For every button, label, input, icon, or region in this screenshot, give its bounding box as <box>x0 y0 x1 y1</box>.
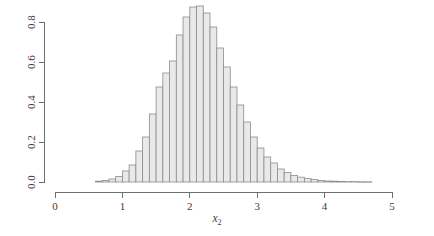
x-axis-title-subscript: 2 <box>218 218 222 227</box>
histogram-bar <box>143 137 150 182</box>
x-axis-tick-label: 5 <box>389 200 395 212</box>
x-axis-tick-label: 3 <box>254 200 260 212</box>
y-axis-tick-label: 0.4 <box>25 95 37 109</box>
histogram-bar <box>304 179 311 182</box>
histogram-bar <box>203 13 210 182</box>
histogram-bar <box>298 177 305 182</box>
histogram-bar <box>116 176 123 182</box>
y-axis-tick-label: 0.6 <box>25 55 37 69</box>
histogram-bar <box>244 122 251 182</box>
y-axis-tick-label: 0.0 <box>25 175 37 189</box>
histogram-bar <box>129 165 136 182</box>
histogram-bar <box>311 180 318 182</box>
histogram-bar <box>170 61 177 182</box>
histogram-bar <box>122 171 129 182</box>
histogram-bar <box>163 73 170 182</box>
histogram-bar <box>271 163 278 182</box>
histogram-bar <box>102 180 109 182</box>
histogram-bar <box>277 169 284 182</box>
histogram-bar <box>136 151 143 182</box>
histogram-bar <box>338 181 345 182</box>
x-axis-tick-label: 1 <box>120 200 126 212</box>
histogram-bar <box>190 7 197 182</box>
x-axis-tick-label: 2 <box>187 200 193 212</box>
histogram-bar <box>264 157 271 182</box>
histogram-bar <box>257 148 264 182</box>
histogram-bar <box>149 114 156 182</box>
histogram-bar <box>156 87 163 182</box>
histogram-bar <box>109 179 116 182</box>
histogram-bar <box>217 48 224 182</box>
histogram-bar <box>318 180 325 182</box>
x-axis-tick-label: 0 <box>52 200 58 212</box>
histogram-bar <box>176 35 183 182</box>
histogram-bar <box>224 67 231 182</box>
histogram-bar <box>325 181 332 182</box>
histogram-plot-container: 0.00.20.40.60.8 012345 x2 <box>0 0 434 236</box>
histogram-chart: 0.00.20.40.60.8 012345 x2 <box>0 0 434 236</box>
histogram-bar <box>183 17 190 182</box>
y-axis-tick-label: 0.8 <box>25 15 37 29</box>
x-axis-tick-label: 4 <box>322 200 328 212</box>
histogram-bar <box>210 27 217 182</box>
histogram-bar <box>291 175 298 182</box>
histogram-bar <box>95 181 102 182</box>
histogram-bar <box>197 6 204 182</box>
histogram-bar <box>237 105 244 182</box>
histogram-bar <box>230 87 237 182</box>
histogram-bar <box>284 172 291 182</box>
y-axis-tick-label: 0.2 <box>25 135 37 149</box>
histogram-bar <box>250 137 257 182</box>
histogram-bar <box>331 181 338 182</box>
